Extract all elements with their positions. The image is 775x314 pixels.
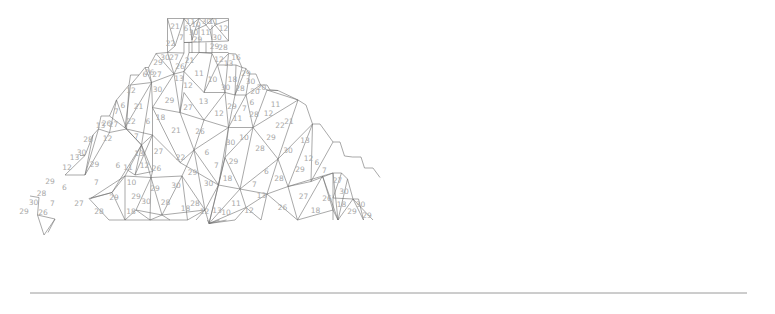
region-number: 11 bbox=[201, 28, 211, 37]
region-number: 18 bbox=[126, 207, 136, 216]
region-number: 12 bbox=[304, 154, 314, 163]
region-number: 13 bbox=[199, 97, 209, 106]
region-number: 29 bbox=[45, 177, 55, 186]
region-number: 29 bbox=[19, 207, 29, 216]
triangle-edge bbox=[342, 173, 348, 179]
region-number: 26 bbox=[278, 203, 288, 212]
region-number: 26 bbox=[152, 164, 162, 173]
region-number: 28 bbox=[255, 144, 265, 153]
region-number: 7 bbox=[94, 178, 99, 187]
region-number: 29 bbox=[295, 165, 305, 174]
triangle-edge bbox=[131, 75, 140, 85]
region-number: 10 bbox=[221, 208, 231, 217]
region-number: 26 bbox=[195, 127, 205, 136]
region-number: 30 bbox=[29, 198, 39, 207]
region-number: 12 bbox=[200, 207, 210, 216]
region-number: 30 bbox=[171, 181, 181, 190]
region-number: 27 bbox=[333, 176, 343, 185]
region-number: 27 bbox=[183, 103, 193, 112]
region-number: 30 bbox=[356, 200, 366, 209]
region-number: 12 bbox=[62, 163, 72, 172]
region-number: 7 bbox=[114, 107, 119, 116]
triangle-edge bbox=[225, 93, 235, 96]
region-number: 12 bbox=[244, 206, 254, 215]
region-number: 6 bbox=[205, 148, 210, 157]
region-number: 29 bbox=[165, 96, 175, 105]
region-number: 11 bbox=[271, 100, 281, 109]
region-number: 11 bbox=[209, 17, 219, 26]
region-number: 7 bbox=[134, 132, 139, 141]
triangle-edge bbox=[131, 83, 152, 86]
region-number: 27 bbox=[154, 147, 164, 156]
region-number: 11 bbox=[123, 163, 133, 172]
region-number: 7 bbox=[179, 33, 184, 42]
region-number: 12 bbox=[103, 134, 113, 143]
triangle-edge bbox=[110, 129, 127, 133]
region-number: 6 bbox=[315, 158, 320, 167]
region-number: 6 bbox=[250, 98, 255, 107]
triangle-edge bbox=[373, 168, 380, 178]
region-number: 27 bbox=[152, 70, 162, 79]
region-number: 22 bbox=[176, 153, 186, 162]
region-number: 26 bbox=[322, 194, 332, 203]
region-number: 18 bbox=[223, 174, 233, 183]
triangle-edge bbox=[112, 176, 125, 193]
triangle-edge bbox=[267, 187, 288, 195]
triangle-edge bbox=[142, 83, 152, 146]
region-number: 6 bbox=[264, 167, 269, 176]
region-number: 13 bbox=[257, 191, 267, 200]
region-number: 29 bbox=[227, 102, 237, 111]
triangle-edge bbox=[127, 129, 153, 135]
region-number: 28 bbox=[83, 135, 93, 144]
region-number: 28 bbox=[161, 198, 171, 207]
triangle-edge bbox=[340, 142, 345, 156]
triangle-edge bbox=[129, 75, 131, 85]
triangle-edge bbox=[240, 159, 278, 189]
region-number: 26 bbox=[38, 208, 48, 217]
triangle-edge bbox=[306, 105, 313, 124]
region-number: 30 bbox=[339, 187, 349, 196]
region-number: 18 bbox=[156, 113, 166, 122]
region-number: 22 bbox=[126, 117, 136, 126]
region-number: 29 bbox=[229, 157, 239, 166]
triangle-edge bbox=[240, 189, 246, 208]
region-number-labels: 2122671110301112302911302928293027212612… bbox=[19, 17, 372, 220]
region-number: 6 bbox=[121, 101, 126, 110]
triangle-edge bbox=[162, 215, 170, 220]
region-number: 29 bbox=[362, 211, 372, 220]
region-number: 6 bbox=[116, 161, 121, 170]
region-number: 28 bbox=[218, 43, 228, 52]
region-number: 26 bbox=[175, 62, 185, 71]
region-number: 30 bbox=[153, 85, 163, 94]
region-number: 28 bbox=[94, 207, 104, 216]
region-number: 11 bbox=[233, 114, 243, 123]
region-number: 28 bbox=[190, 199, 200, 208]
region-number: 12 bbox=[183, 81, 193, 90]
region-number: 12 bbox=[140, 161, 150, 170]
region-number: 30 bbox=[226, 138, 236, 147]
region-number: 18 bbox=[181, 204, 191, 213]
region-number: 10 bbox=[208, 75, 218, 84]
triangle-edge bbox=[320, 124, 333, 142]
triangle-edge bbox=[278, 91, 298, 101]
region-number: 7 bbox=[214, 161, 219, 170]
triangle-edge bbox=[150, 215, 162, 220]
triangle-edge bbox=[38, 215, 45, 235]
triangle-edge bbox=[345, 156, 353, 157]
region-number: 21 bbox=[170, 22, 180, 31]
region-number: 10 bbox=[239, 133, 249, 142]
triangulated-mountain-diagram: 2122671110301112302911302928293027212612… bbox=[0, 0, 775, 314]
region-number: 20 bbox=[257, 83, 267, 92]
triangle-edge bbox=[298, 100, 306, 105]
region-number: 27 bbox=[74, 199, 84, 208]
region-number: 30 bbox=[283, 146, 293, 155]
region-number: 7 bbox=[322, 166, 327, 175]
region-number: 30 bbox=[77, 148, 87, 157]
region-number: 16 bbox=[231, 53, 241, 62]
region-number: 30 bbox=[204, 179, 214, 188]
region-number: 6 bbox=[146, 117, 151, 126]
triangle-edge bbox=[44, 219, 55, 235]
triangle-edge bbox=[151, 176, 182, 178]
region-number: 7 bbox=[252, 180, 257, 189]
triangle-edge bbox=[267, 90, 298, 100]
